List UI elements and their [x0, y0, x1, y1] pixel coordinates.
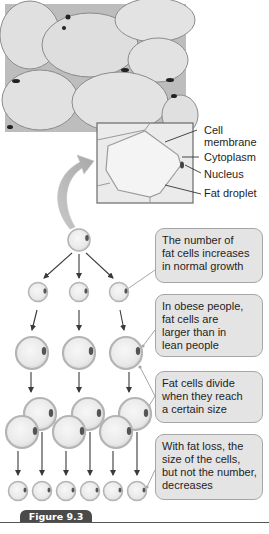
cells-row-5-shrunk	[9, 482, 147, 501]
callout-line: a certain size	[162, 403, 258, 416]
cells-row-4-dividing	[6, 398, 151, 448]
callout-line: Fat cells divide	[162, 377, 258, 390]
callout-leader-lines	[126, 270, 155, 487]
label-cell-membrane: Cell membrane	[204, 124, 257, 148]
callout-cells-divide: Fat cells divide when they reach a certa…	[155, 371, 263, 423]
curved-arrow-icon	[58, 155, 94, 229]
callout-line: In obese people,	[162, 300, 258, 313]
callout-line: in normal growth	[162, 260, 258, 273]
callout-line: The number of	[162, 234, 258, 247]
callout-line: With fat loss, the	[162, 440, 258, 453]
callout-line: decreases	[162, 479, 258, 492]
callout-line: fat cells are	[162, 313, 258, 326]
figure-divider-line	[0, 522, 269, 523]
cells-row-3-enlarged	[16, 337, 142, 369]
callout-fat-loss: With fat loss, the size of the cells, bu…	[155, 434, 263, 500]
cell-origin	[68, 229, 90, 251]
label-nucleus: Nucleus	[204, 168, 244, 180]
callout-line: larger than in	[162, 326, 258, 339]
cells-row-2	[29, 283, 129, 302]
micrograph-photo	[0, 0, 198, 135]
callout-line: size of the cells,	[162, 453, 258, 466]
callout-line: lean people	[162, 339, 258, 352]
callout-line: but not the number,	[162, 466, 258, 479]
callout-obese-larger: In obese people, fat cells are larger th…	[155, 294, 263, 357]
callout-normal-growth: The number of fat cells increases in nor…	[155, 228, 263, 283]
label-fat-droplet: Fat droplet	[204, 187, 257, 199]
callout-line: fat cells increases	[162, 247, 258, 260]
inset-zoom-box	[97, 123, 193, 203]
label-cell-membrane-line1: Cell	[204, 124, 257, 136]
label-cytoplasm: Cytoplasm	[204, 151, 256, 163]
callout-line: when they reach	[162, 390, 258, 403]
label-cell-membrane-line2: membrane	[204, 136, 257, 148]
